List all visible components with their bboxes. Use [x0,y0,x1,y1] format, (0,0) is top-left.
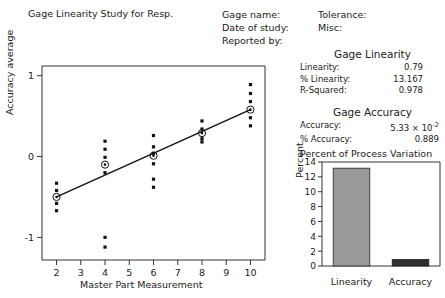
header-label-reported-by: Reported by: [222,34,289,47]
gage-accuracy-heading: Gage Accuracy [300,106,445,118]
bar [333,168,370,266]
bar [392,259,429,266]
scatter-x-tick-label: 5 [126,267,132,278]
stat-label-percent-linearity: % Linearity: [300,74,362,86]
header-label-gage-name: Gage name: [222,8,289,21]
bar-y-tick-label: 4 [310,232,316,242]
group-mean-marker [53,193,60,200]
scatter-x-tick-label: 3 [78,267,84,278]
bar-y-tick-label: 0 [310,261,316,271]
gage-linearity-heading: Gage Linearity [300,48,445,60]
scatter-point [249,92,252,95]
gage-linearity-block: Gage Linearity Linearity: 0.79 % Lineari… [300,48,445,97]
bar-y-tick-label: 8 [310,202,316,212]
stat-row-percent-accuracy: % Accuracy: 0.889 [300,134,445,146]
group-mean-marker [247,106,254,113]
scatter-point [103,140,106,143]
scatter-svg: 10-12345678910 [0,60,290,298]
bar-y-tick-label: 10 [305,187,317,197]
scatter-point [103,236,106,239]
bar-svg: 02468101214 [300,158,445,278]
scatter-x-tick-label: 2 [54,267,60,278]
bar-y-tick-label: 12 [305,172,316,182]
header-value-column: Tolerance: Misc: [318,8,367,34]
header-label-date-of-study: Date of study: [222,21,289,34]
stat-label-linearity: Linearity: [300,62,362,74]
scatter-y-tick-label: 0 [28,151,34,162]
scatter-point [55,182,58,185]
scatter-point [55,209,58,212]
scatter-point [152,145,155,148]
page-title: Gage Linearity Study for Resp. [28,8,173,19]
stat-value-percent-linearity: 13.167 [362,74,445,86]
stat-value-linearity: 0.79 [362,62,445,74]
scatter-point [55,202,58,205]
scatter-point [249,100,252,103]
header-label-tolerance: Tolerance: [318,8,367,21]
scatter-point [152,186,155,189]
stat-value-accuracy-mantissa: 5.33 × 10 [390,122,432,132]
scatter-point [103,148,106,151]
scatter-x-tick-label: 6 [150,267,156,278]
scatter-point [103,245,106,248]
scatter-point [249,124,252,127]
scatter-point [200,137,203,140]
stat-label-accuracy: Accuracy: [300,120,362,134]
statistics-panel: Gage Linearity Linearity: 0.79 % Lineari… [300,48,445,145]
scatter-x-tick-label: 8 [199,267,205,278]
stat-row-accuracy: Accuracy: 5.33 × 10-2 [300,120,445,134]
scatter-y-tick-label: 1 [28,70,34,81]
scatter-point [152,162,155,165]
scatter-point [103,156,106,159]
header-label-misc: Misc: [318,21,367,34]
scatter-point [200,140,203,143]
stat-row-r-squared: R-Squared: 0.978 [300,85,445,97]
scatter-x-tick-label: 9 [223,267,229,278]
header-label-column: Gage name: Date of study: Reported by: [222,8,289,47]
percent-of-process-variation-chart: 02468101214 [300,158,445,278]
bar-y-tick-label: 2 [310,247,316,257]
scatter-point [249,83,252,86]
stat-label-percent-accuracy: % Accuracy: [300,134,362,146]
group-mean-marker [101,161,108,168]
stat-value-percent-accuracy: 0.889 [362,134,445,146]
scatter-point [200,119,203,122]
scatter-point [103,171,106,174]
stat-row-percent-linearity: % Linearity: 13.167 [300,74,445,86]
scatter-y-tick-label: -1 [25,232,34,243]
gage-accuracy-block: Gage Accuracy Accuracy: 5.33 × 10-2 % Ac… [300,106,445,146]
stat-value-accuracy: 5.33 × 10-2 [362,120,445,134]
stat-value-r-squared: 0.978 [362,85,445,97]
bar-y-tick-label: 6 [310,217,316,227]
scatter-x-tick-label: 4 [102,267,108,278]
scatter-point [55,189,58,192]
scatter-x-tick-label: 10 [244,267,256,278]
stat-label-r-squared: R-Squared: [300,85,362,97]
gage-linearity-scatter-plot: 10-12345678910 [0,60,290,298]
bar-y-tick-label: 14 [305,157,317,167]
stat-value-accuracy-exponent: -2 [433,121,439,129]
scatter-x-tick-label: 7 [175,267,181,278]
scatter-point [152,178,155,181]
stat-row-linearity: Linearity: 0.79 [300,62,445,74]
scatter-point [152,134,155,137]
scatter-point [249,116,252,119]
